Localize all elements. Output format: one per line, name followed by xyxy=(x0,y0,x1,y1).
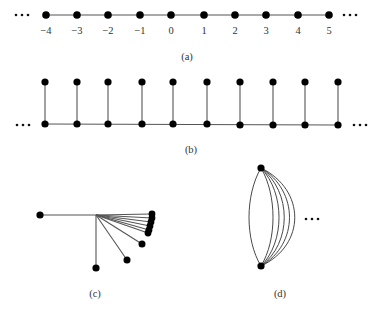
right-ellipsis-icon xyxy=(353,124,368,127)
node-label: −2 xyxy=(102,25,113,36)
node-label: 1 xyxy=(201,25,206,36)
caption-c: (c) xyxy=(89,288,101,300)
parallel-edges xyxy=(249,168,295,266)
node-labels: −4 −3 −2 −1 0 1 2 3 4 5 xyxy=(40,25,331,36)
node-label: 2 xyxy=(232,25,237,36)
node-label: 0 xyxy=(168,25,173,36)
left-ellipsis-icon xyxy=(16,124,31,127)
node-label: −3 xyxy=(71,25,82,36)
caption-b: (b) xyxy=(185,144,198,156)
panel-c: (c) xyxy=(36,211,155,300)
top-vertex xyxy=(257,164,264,171)
teeth-edges xyxy=(45,82,338,125)
spine-edge xyxy=(45,124,338,125)
node-label: 4 xyxy=(295,25,301,36)
panel-b: (b) xyxy=(16,78,368,156)
node-label: −1 xyxy=(134,25,145,36)
node-label: 5 xyxy=(326,25,331,36)
panel-a: −4 −3 −2 −1 0 1 2 3 4 5 (a) xyxy=(15,11,358,63)
comb-nodes xyxy=(41,78,341,128)
node-label: 3 xyxy=(263,25,268,36)
right-ellipsis-icon xyxy=(343,14,358,17)
left-ellipsis-icon xyxy=(15,14,30,17)
fan-edges xyxy=(96,214,152,260)
ellipsis-icon xyxy=(305,218,320,221)
diagram-canvas: −4 −3 −2 −1 0 1 2 3 4 5 (a) xyxy=(0,0,375,314)
caption-a: (a) xyxy=(181,51,193,63)
panel-d: (d) xyxy=(249,164,319,300)
node-label: −4 xyxy=(40,25,52,36)
bottom-vertex xyxy=(257,262,264,269)
caption-d: (d) xyxy=(274,288,287,300)
